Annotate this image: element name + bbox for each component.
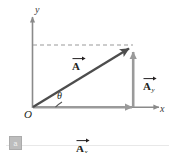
bottom-divider [6,145,169,146]
x-component-label-text: A [76,142,84,153]
figure-part-badge: a [9,136,22,150]
x-axis-label: x [160,104,164,114]
y-component-label-text: A [143,80,151,92]
vector-overarrow-icon [72,56,86,61]
vector-diagram-figure: y x O θ A A y A [0,0,173,153]
y-component-label-subscript: y [151,86,154,94]
vector-overarrow-icon [143,76,157,81]
y-component-label-base: A [143,81,151,92]
figure-part-badge-label: a [14,140,18,147]
x-component-label-subscript: x [84,148,87,153]
y-component-vector-label: A y [143,81,173,94]
resultant-vector-label-base: A [72,61,80,72]
vector-overarrow-icon [76,138,90,143]
resultant-vector-label: A [72,61,173,72]
theta-angle-label: θ [57,91,62,101]
y-axis-label: y [35,5,39,15]
resultant-vector-label-text: A [72,60,80,72]
origin-label: O [24,109,32,120]
